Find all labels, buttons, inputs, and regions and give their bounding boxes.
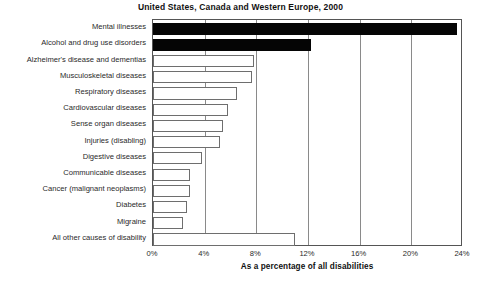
bar[interactable] [153,55,254,67]
bar[interactable] [153,136,220,148]
y-axis-label: Musculoskeletal diseases [0,72,146,80]
bar[interactable] [153,104,228,116]
bar-row [153,198,461,214]
y-axis-label: Digestive diseases [0,153,146,161]
bar-row [153,117,461,133]
bars-layer [153,20,461,245]
bar[interactable] [153,233,295,245]
bar-row [153,52,461,68]
bar-row [153,85,461,101]
y-axis-label: Migraine [0,218,146,226]
y-axis-label: Respiratory diseases [0,88,146,96]
y-axis-label: Cancer (malignant neoplasms) [0,185,146,193]
bar-row [153,166,461,182]
x-axis-tick-label: 20% [403,249,418,258]
bar-row [153,101,461,117]
chart-title: United States, Canada and Western Europe… [0,2,481,12]
bar[interactable] [153,201,187,213]
x-axis-tick-labels: 0%4%8%12%16%20%24% [152,249,462,261]
bar-row [153,36,461,52]
bar-chart-figure: United States, Canada and Western Europe… [0,0,481,290]
y-axis-label: Injuries (disabling) [0,137,146,145]
y-axis-label: Mental illnesses [0,23,146,31]
bar[interactable] [153,71,252,83]
y-axis-label: Cardiovascular diseases [0,104,146,112]
y-axis-category-labels: Mental illnessesAlcohol and drug use dis… [0,19,150,246]
bar-row [153,150,461,166]
x-axis-title: As a percentage of all disabilities [152,262,462,271]
bar[interactable] [153,87,237,99]
bar[interactable] [153,152,202,164]
bar[interactable] [153,120,223,132]
x-axis-tick-label: 8% [250,249,261,258]
bar[interactable] [153,169,190,181]
bar-row [153,20,461,36]
x-axis-tick-label: 12% [299,249,314,258]
bar[interactable] [153,217,183,229]
y-axis-label: All other causes of disability [0,234,146,242]
bar[interactable] [153,23,457,35]
x-axis-tick-label: 4% [198,249,209,258]
gridline-24pct [463,20,464,245]
bar-row [153,134,461,150]
y-axis-label: Diabetes [0,201,146,209]
bar-row [153,215,461,231]
plot-area [152,19,462,246]
bar[interactable] [153,39,311,51]
y-axis-label: Alzheimer's disease and dementias [0,56,146,64]
y-axis-label: Communicable diseases [0,169,146,177]
bar-row [153,231,461,247]
bar[interactable] [153,185,190,197]
x-axis-tick-label: 24% [454,249,469,258]
bar-row [153,182,461,198]
x-axis-tick-label: 0% [147,249,158,258]
y-axis-label: Alcohol and drug use disorders [0,39,146,47]
bar-row [153,69,461,85]
x-axis-tick-label: 16% [351,249,366,258]
y-axis-label: Sense organ diseases [0,120,146,128]
